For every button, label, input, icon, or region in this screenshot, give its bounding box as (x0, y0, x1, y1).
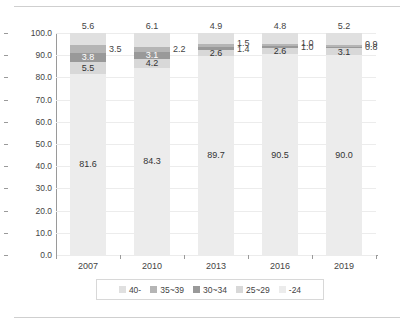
bar-segment-40-[interactable] (70, 33, 106, 45)
data-label-35~39: 1.0 (301, 38, 314, 48)
data-label-40-: 4.8 (262, 21, 298, 31)
y-tick-label: 30.0 (8, 183, 52, 193)
data-label-30~34: 3.8 (70, 52, 106, 62)
bar-2010[interactable]: 84.34.23.12.26.1 (134, 33, 170, 255)
legend-swatch-icon (193, 286, 200, 293)
data-label-35~39: 0.9 (365, 39, 378, 49)
x-tick-mark (376, 255, 377, 259)
bar-2016[interactable]: 90.52.61.01.04.8 (262, 33, 298, 255)
bar-segment-30~34[interactable] (262, 46, 298, 48)
chart-page: 0.010.020.030.040.050.060.070.080.090.01… (0, 0, 414, 326)
bottom-divider (14, 317, 400, 318)
data-label-25~29: 5.5 (70, 63, 106, 73)
bar-segment-30~34[interactable] (326, 47, 362, 49)
legend-label: 40- (129, 285, 141, 295)
data-label--24: 81.6 (70, 159, 106, 169)
legend-item-25~29[interactable]: 25~29 (236, 285, 270, 295)
bar-segment-35~39[interactable] (198, 44, 234, 47)
bar-segment-35~39[interactable] (134, 47, 170, 52)
y-tick-label: 100.0 (8, 28, 52, 38)
data-label-40-: 5.6 (70, 21, 106, 31)
data-label-40-: 5.2 (326, 21, 362, 31)
chart-legend[interactable]: 40-35~3930~3425~29-24 (96, 279, 324, 300)
y-tick-label: 50.0 (8, 139, 52, 149)
bar-segment-40-[interactable] (198, 33, 234, 44)
y-tick-label: 70.0 (8, 95, 52, 105)
plot-area: 81.65.53.83.55.684.34.23.12.26.189.72.61… (56, 33, 376, 255)
y-tick-label: 0.0 (8, 250, 52, 260)
data-label--24: 89.7 (198, 150, 234, 160)
data-label--24: 90.0 (326, 150, 362, 160)
data-label-35~39: 3.5 (109, 44, 122, 54)
data-label-40-: 6.1 (134, 21, 170, 31)
bar-segment-40-[interactable] (326, 33, 362, 45)
data-label--24: 90.5 (262, 150, 298, 160)
legend-item-35~39[interactable]: 35~39 (150, 285, 184, 295)
x-tick-label-2016: 2016 (270, 261, 290, 271)
y-axis-labels: 0.010.020.030.040.050.060.070.080.090.01… (6, 33, 52, 255)
gridline (56, 255, 376, 256)
x-tick-label-2013: 2013 (206, 261, 226, 271)
y-tick-label: 40.0 (8, 161, 52, 171)
y-tick-label: 60.0 (8, 117, 52, 127)
bar-2019[interactable]: 90.03.10.80.95.2 (326, 33, 362, 255)
bar-segment-40-[interactable] (262, 33, 298, 44)
bar-2013[interactable]: 89.72.61.41.54.9 (198, 33, 234, 255)
legend-label: 25~29 (246, 285, 270, 295)
x-tick-mark (56, 255, 57, 259)
y-tick-label: 20.0 (8, 206, 52, 216)
legend-label: 35~39 (160, 285, 184, 295)
legend-swatch-icon (150, 286, 157, 293)
data-label-35~39: 2.2 (173, 44, 186, 54)
top-divider (14, 6, 400, 7)
bar-2007[interactable]: 81.65.53.83.55.6 (70, 33, 106, 255)
data-label--24: 84.3 (134, 156, 170, 166)
bar-segment-40-[interactable] (134, 33, 170, 47)
x-tick-mark (184, 255, 185, 259)
data-label-40-: 4.9 (198, 21, 234, 31)
x-tick-mark (120, 255, 121, 259)
legend-item--24[interactable]: -24 (279, 285, 301, 295)
y-tick-label: 80.0 (8, 72, 52, 82)
x-tick-mark (248, 255, 249, 259)
legend-swatch-icon (119, 286, 126, 293)
bar-segment-35~39[interactable] (262, 44, 298, 46)
x-tick-mark (312, 255, 313, 259)
x-tick-label-2007: 2007 (78, 261, 98, 271)
x-tick-label-2019: 2019 (334, 261, 354, 271)
bar-segment-30~34[interactable] (198, 47, 234, 50)
legend-item-40-[interactable]: 40- (119, 285, 141, 295)
y-tick-label: 10.0 (8, 228, 52, 238)
legend-label: 30~34 (203, 285, 227, 295)
data-label-35~39: 1.5 (237, 38, 250, 48)
legend-swatch-icon (236, 286, 243, 293)
legend-label: -24 (289, 285, 301, 295)
x-tick-label-2010: 2010 (142, 261, 162, 271)
legend-item-30~34[interactable]: 30~34 (193, 285, 227, 295)
y-tick-label: 90.0 (8, 50, 52, 60)
bar-segment-35~39[interactable] (326, 45, 362, 47)
bar-segment-35~39[interactable] (70, 45, 106, 53)
legend-swatch-icon (279, 286, 286, 293)
